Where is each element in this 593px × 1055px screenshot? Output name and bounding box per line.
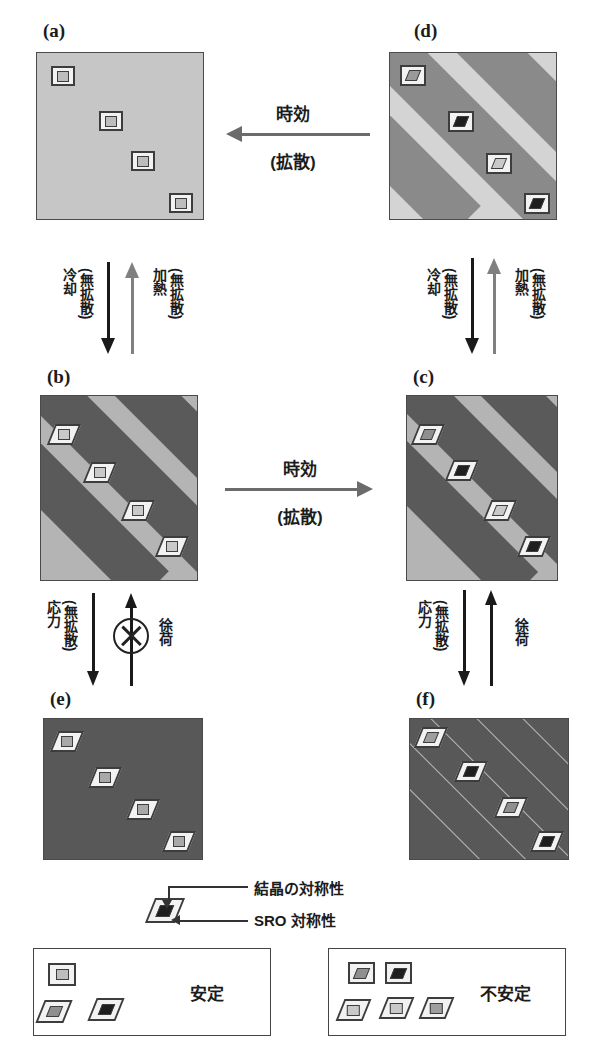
marker-square-in-square [51,66,75,86]
heating-label-dc: 加熱 [514,268,528,296]
legend-stable-box [33,948,271,1036]
marker-inner [137,156,149,167]
legend-unstable-shape [348,962,375,984]
cooling-label-dc: 冷却 [426,268,440,296]
stress-label-cf: 応力 [417,600,431,628]
marker-parallelogram-in-square [448,111,474,132]
stress-sublabel-be: (無拡散) [63,600,77,651]
marker-parallelogram-in-parallelogram [494,797,528,818]
marker-inner [430,1003,443,1014]
marker-inner [105,116,117,127]
marker-inner [166,541,178,552]
marker-square-in-parallelogram [88,767,122,788]
legend-stable-label: 安定 [190,980,224,1005]
panel-c [406,395,558,581]
marker-inner [353,968,370,979]
marker-inner [173,836,185,847]
marker-inner [491,158,507,169]
heating-sublabel-dc: (無拡散) [531,268,545,319]
cooling-sublabel-ab: (無拡散) [79,268,93,319]
marker-inner [463,766,479,777]
heating-sublabel-ab: (無拡散) [169,268,183,319]
key-leader-top [168,886,248,888]
marker-inner [61,736,73,747]
key-leader-bottom [180,920,248,922]
aging-top-label: 時効 [238,100,348,125]
marker-inner [526,541,542,552]
marker-square-in-parallelogram [162,831,196,852]
marker-square-in-square [131,151,155,171]
panel-a [36,52,204,220]
marker-inner [137,804,149,815]
key-sro-symmetry-label: SRO 対称性 [254,909,336,930]
marker-square-in-square [99,111,123,131]
panel-b [40,395,198,581]
marker-square-in-parallelogram [126,799,160,820]
marker-inner [453,116,469,127]
panel-d [389,52,557,220]
marker-inner [539,836,555,847]
marker-inner [390,968,407,979]
panel-label-f: (f) [416,688,435,710]
marker-square-in-square [169,193,193,213]
key-arrowhead-bottom [171,915,180,925]
panel-e [43,718,203,860]
marker-parallelogram-in-parallelogram [530,831,564,852]
marker-inner [503,802,519,813]
panel-label-a: (a) [43,20,65,42]
cooling-sublabel-dc: (無拡散) [443,268,457,319]
legend-stable-shape [48,963,76,986]
blocked-transition-icon [113,618,149,654]
marker-inner [99,772,111,783]
cooling-label-ab: 冷却 [62,268,76,296]
marker-parallelogram-in-parallelogram [454,761,488,782]
marker-inner [132,505,144,516]
marker-parallelogram-in-square [400,65,426,86]
unload-label-cf: 徐荷 [514,618,528,646]
panel-label-d: (d) [414,20,437,42]
panel-label-b: (b) [47,366,70,388]
unload-label-be: 徐荷 [158,618,172,646]
aging-mid-label: 時効 [245,455,355,480]
marker-inner [492,505,508,516]
aging-top-sublabel: (拡散) [228,148,358,173]
marker-inner [390,1003,403,1014]
aging-mid-sublabel: (拡散) [235,503,365,528]
marker-inner [347,1005,360,1016]
stress-label-be: 応力 [46,600,60,628]
marker-inner [57,71,69,82]
key-arrowhead-top [162,900,172,909]
marker-inner [423,732,439,743]
legend-unstable-shape [385,962,412,984]
marker-parallelogram-in-square [524,193,550,214]
key-crystal-symmetry-label: 結晶の対称性 [254,877,344,898]
marker-inner [175,198,187,209]
marker-inner [56,969,69,980]
marker-inner [58,429,70,440]
marker-inner [94,467,106,478]
stress-sublabel-cf: (無拡散) [434,600,448,651]
marker-inner [454,465,470,476]
panel-f [409,718,569,860]
marker-inner [45,1006,62,1017]
marker-square-in-parallelogram [50,731,84,752]
legend-unstable-label: 不安定 [480,980,531,1005]
marker-parallelogram-in-square [486,153,512,174]
panel-label-e: (e) [50,688,71,710]
marker-inner [97,1004,114,1015]
marker-inner [529,198,545,209]
panel-label-c: (c) [413,366,434,388]
heating-label-ab: 加熱 [152,268,166,296]
marker-parallelogram-in-parallelogram [414,727,448,748]
marker-inner [405,70,421,81]
marker-inner [420,429,436,440]
